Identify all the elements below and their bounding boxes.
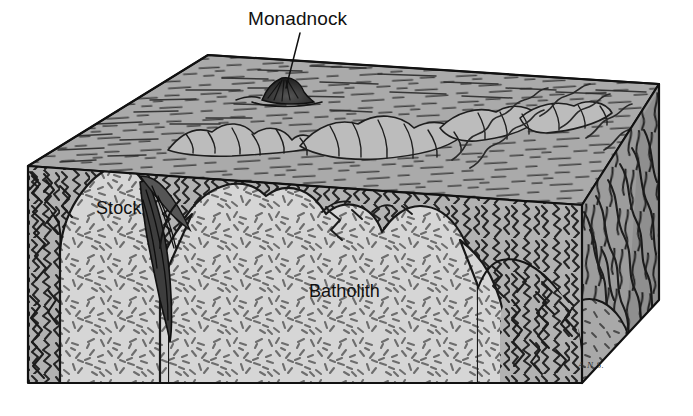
figure-canvas: Monadnock Stock Batholith A.N.S. — [0, 0, 693, 416]
artist-signature: A.N.S. — [578, 360, 604, 370]
label-monadnock: Monadnock — [248, 8, 347, 30]
label-stock: Stock — [96, 198, 142, 219]
label-batholith: Batholith — [309, 281, 380, 302]
